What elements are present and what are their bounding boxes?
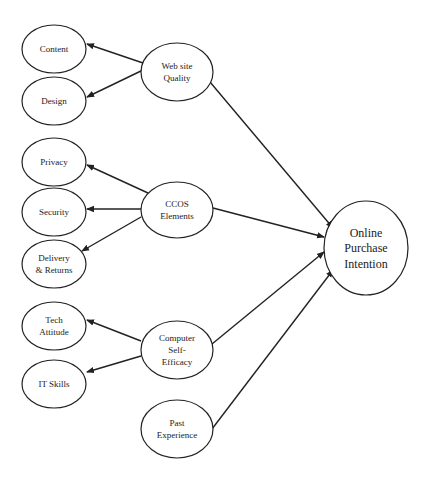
node-label: Intention	[344, 257, 387, 271]
node-delivery-returns: Delivery& Returns	[22, 240, 86, 288]
node-label: CCOS	[165, 199, 189, 209]
edge-web-site-quality-to-design	[87, 70, 143, 97]
node-label: Delivery	[38, 253, 70, 263]
node-label: Computer	[159, 333, 195, 343]
node-label: Efficacy	[162, 357, 193, 367]
node-label: Past	[169, 418, 185, 428]
node-label: Privacy	[40, 157, 68, 167]
node-label: IT Skills	[38, 379, 70, 389]
edge-computer-self-efficacy-to-it-skills	[87, 356, 141, 372]
node-ellipse	[22, 302, 86, 350]
node-privacy: Privacy	[22, 138, 86, 186]
node-label: Design	[41, 96, 67, 106]
node-label: Experience	[157, 430, 197, 440]
nodes-layer: ContentDesignWeb siteQualityPrivacySecur…	[22, 25, 408, 458]
node-it-skills: IT Skills	[22, 360, 86, 408]
node-past-experience: PastExperience	[141, 400, 213, 458]
node-design: Design	[22, 77, 86, 125]
edge-web-site-quality-to-online-purchase-intention	[210, 82, 333, 228]
node-tech-attitude: TechAttitude	[22, 302, 86, 350]
diagram-canvas: ContentDesignWeb siteQualityPrivacySecur…	[0, 0, 429, 480]
node-label: Quality	[164, 73, 191, 83]
node-label: Web site	[161, 61, 192, 71]
node-ellipse	[22, 240, 86, 288]
node-computer-self-efficacy: ComputerSelf-Efficacy	[141, 321, 213, 379]
node-ellipse	[141, 182, 213, 238]
node-label: Security	[39, 207, 69, 217]
node-online-purchase-intention: OnlinePurchaseIntention	[324, 201, 408, 295]
edge-web-site-quality-to-content	[87, 44, 143, 63]
node-label: Tech	[45, 315, 63, 325]
node-ccos-elements: CCOSElements	[141, 182, 213, 238]
edge-ccos-elements-to-online-purchase-intention	[213, 208, 324, 237]
edges-layer	[82, 44, 333, 429]
research-model-diagram: ContentDesignWeb siteQualityPrivacySecur…	[0, 0, 429, 480]
node-label: Content	[40, 44, 69, 54]
node-label: Online	[350, 226, 383, 240]
edge-computer-self-efficacy-to-tech-attitude	[87, 320, 141, 341]
node-label: Attitude	[39, 327, 69, 337]
edge-ccos-elements-to-privacy	[87, 165, 148, 193]
node-label: Self-	[168, 345, 186, 355]
node-ellipse	[141, 43, 213, 101]
node-security: Security	[22, 188, 86, 236]
node-label: Elements	[160, 211, 194, 221]
edge-ccos-elements-to-delivery-returns	[82, 217, 141, 251]
node-label: Purchase	[344, 241, 387, 255]
node-label: & Returns	[35, 265, 73, 275]
edge-computer-self-efficacy-to-online-purchase-intention	[212, 252, 324, 344]
node-ellipse	[141, 400, 213, 458]
node-content: Content	[22, 25, 86, 73]
node-web-site-quality: Web siteQuality	[141, 43, 213, 101]
